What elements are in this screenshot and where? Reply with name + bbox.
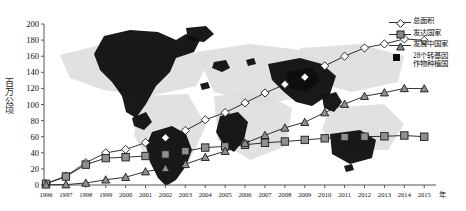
y-tick-label: 100 (26, 100, 39, 110)
gray-square-icon (389, 29, 411, 40)
x-tick-label: 2012 (358, 191, 371, 198)
data-point (321, 109, 329, 116)
legend-label-28-countries-line2: 作物种植国 (413, 60, 448, 68)
data-point (341, 100, 349, 107)
legend-item-developed: 发达国家 (389, 29, 466, 40)
x-tick-label: 2003 (179, 191, 193, 198)
legend-item-total-area: 总面积 (389, 17, 466, 28)
data-point (281, 138, 288, 145)
x-tick-label: 2013 (378, 191, 392, 198)
x-tick-label: 1997 (59, 191, 73, 198)
data-point (301, 118, 309, 125)
open-diamond-icon (389, 17, 411, 28)
x-axis-unit: 年 (439, 190, 447, 199)
x-tick-label: 2009 (298, 191, 312, 198)
x-tick-label: 2000 (119, 191, 133, 198)
y-axis-tick-labels: 020406080100120140160180200 (26, 19, 39, 190)
legend-label-28-countries: 28个转基因 作物种植国 (411, 52, 448, 69)
x-tick-label: 1999 (99, 191, 113, 198)
data-point (301, 136, 308, 143)
data-point (122, 154, 129, 161)
data-point (102, 154, 109, 161)
x-tick-label: 2015 (418, 191, 432, 198)
x-tick-label: 1998 (79, 191, 93, 198)
y-axis-title: 百万公顷 (0, 78, 13, 114)
x-tick-label: 2007 (258, 191, 272, 198)
y-tick-label: 20 (31, 164, 40, 174)
x-tick-label: 2010 (318, 191, 332, 198)
y-tick-label: 200 (26, 19, 39, 29)
data-point (321, 135, 328, 142)
data-point (261, 139, 268, 146)
data-point (421, 133, 428, 140)
data-point (122, 145, 130, 153)
data-point (142, 152, 149, 159)
data-point (62, 173, 69, 180)
y-tick-label: 180 (26, 35, 39, 45)
x-tick-label: 2008 (278, 191, 292, 198)
data-point (182, 147, 189, 154)
data-point (381, 133, 388, 140)
x-tick-label: 2005 (219, 191, 233, 198)
legend-label-developed: 发达国家 (411, 29, 441, 37)
x-axis-unit-label: 年 (439, 190, 447, 199)
data-point (201, 153, 209, 160)
y-tick-label: 0 (35, 180, 39, 190)
y-tick-label: 60 (31, 132, 40, 142)
chart-figure: 020406080100120140160180200 199619971998… (0, 0, 466, 211)
data-point (341, 133, 348, 140)
x-axis-tick-labels: 1996199719981999200020012002200320042005… (39, 191, 431, 198)
y-tick-label: 140 (26, 67, 39, 77)
x-tick-label: 1996 (39, 191, 53, 198)
x-tick-label: 2004 (199, 191, 213, 198)
y-tick-label: 80 (31, 116, 40, 126)
legend-item-developing: 发展中国家 (389, 40, 466, 51)
y-tick-label: 160 (26, 51, 39, 61)
gray-triangle-icon (389, 40, 411, 51)
legend-item-28-countries: 28个转基因 作物种植国 (389, 52, 466, 70)
black-square-icon (389, 52, 411, 63)
x-tick-label: 2002 (159, 191, 172, 198)
legend-label-developing: 发展中国家 (411, 40, 448, 48)
x-tick-label: 2011 (338, 191, 351, 198)
x-tick-label: 2001 (139, 191, 152, 198)
data-point (82, 161, 89, 168)
data-point (401, 132, 408, 139)
data-point (380, 40, 388, 48)
y-tick-label: 120 (26, 83, 39, 93)
x-tick-label: 2006 (238, 191, 252, 198)
legend-label-total-area: 总面积 (411, 17, 434, 25)
data-point (361, 133, 368, 140)
world-map-background (60, 26, 404, 186)
x-tick-label: 2014 (398, 191, 412, 198)
data-point (202, 144, 209, 151)
chart-legend: 总面积 发达国家 发展中国家 28个转基因 作物种植国 (389, 17, 466, 70)
y-tick-label: 40 (31, 148, 40, 158)
data-point (162, 151, 169, 158)
